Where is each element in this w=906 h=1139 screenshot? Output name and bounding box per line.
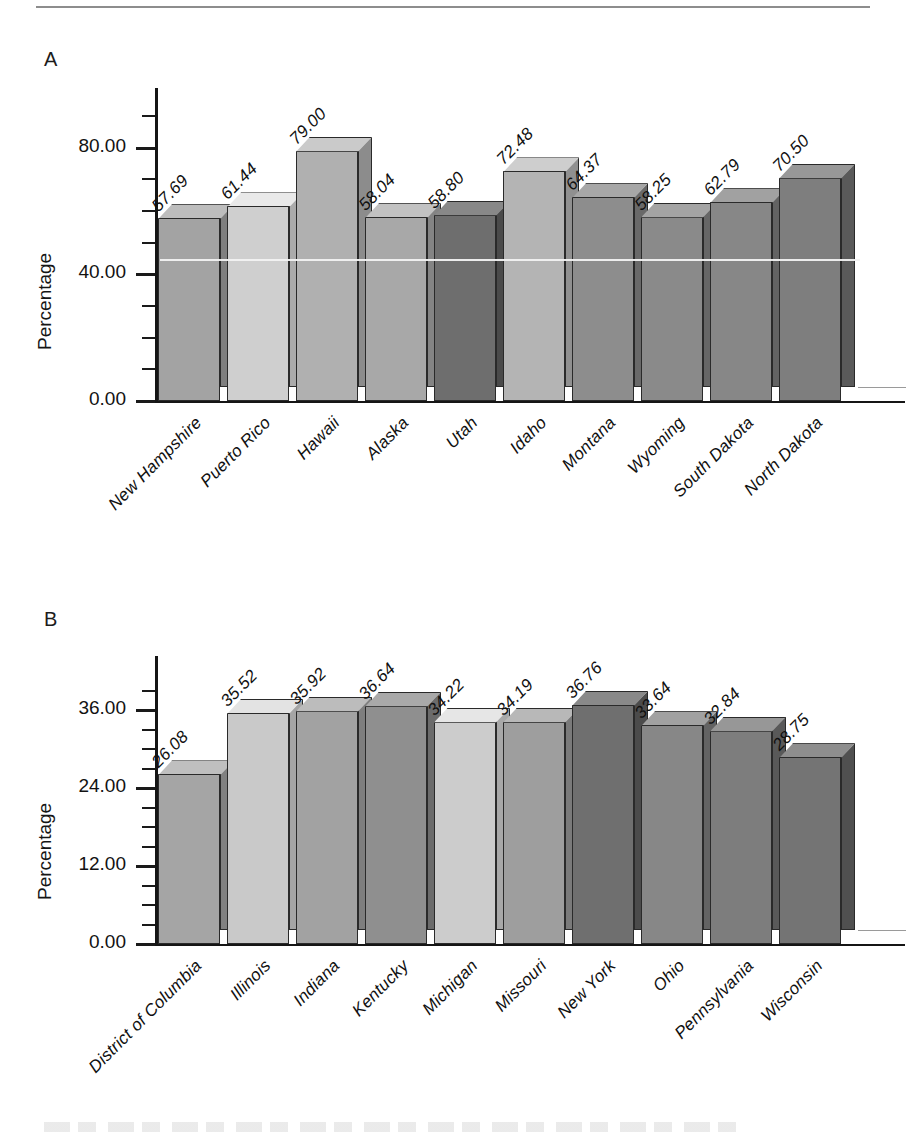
bar-front-face (503, 722, 565, 944)
x-axis-baseline (155, 944, 905, 946)
y-axis-major-tick (136, 273, 155, 276)
y-axis-tick-label: 40.00 (8, 261, 126, 283)
y-axis-minor-tick (142, 729, 155, 731)
bar-district-of-columbia[interactable] (158, 760, 234, 944)
y-axis-minor-tick (142, 885, 155, 887)
y-axis-major-tick (136, 709, 155, 712)
bar-wyoming[interactable] (641, 203, 717, 401)
bar-pennsylvania[interactable] (710, 717, 786, 944)
bar-front-face (572, 705, 634, 944)
bar-indiana[interactable] (296, 697, 372, 944)
y-axis-major-tick (136, 147, 155, 150)
bar-front-face (572, 197, 634, 401)
y-axis-major-tick (136, 400, 155, 403)
bar-north-dakota[interactable] (779, 164, 855, 401)
bar-idaho[interactable] (503, 157, 579, 401)
bar-new-york[interactable] (572, 691, 648, 944)
bar-front-face (296, 151, 358, 401)
top-divider-rule (36, 6, 870, 8)
y-axis-major-tick (136, 787, 155, 790)
y-axis-minor-tick (142, 690, 155, 692)
bar-front-face (296, 711, 358, 944)
bar-front-face (779, 757, 841, 944)
y-axis-tick-label: 36.00 (8, 697, 126, 719)
y-axis-minor-tick (142, 115, 155, 117)
bar-front-face (641, 217, 703, 401)
y-axis-tick-label: 24.00 (8, 775, 126, 797)
bar-front-face (434, 722, 496, 944)
caption-ghost-artifact (44, 1122, 744, 1132)
bar-front-face (434, 215, 496, 401)
x-axis-back-edge (858, 387, 906, 388)
bar-illinois[interactable] (227, 699, 303, 944)
bar-wisconsin[interactable] (779, 743, 855, 944)
bar-new-hampshire[interactable] (158, 204, 234, 401)
chart-panel-a: A Percentage 0.0040.0080.0057.69New Hamp… (0, 30, 897, 590)
bar-side-face (841, 164, 855, 387)
panel-b-plot-area: 0.0012.0024.0036.0026.08District of Colu… (0, 600, 897, 1120)
bar-front-face (158, 774, 220, 944)
y-axis-minor-tick (142, 748, 155, 750)
y-axis-minor-tick (142, 807, 155, 809)
bar-south-dakota[interactable] (710, 188, 786, 401)
bar-front-face (227, 206, 289, 401)
bar-puerto-rico[interactable] (227, 192, 303, 401)
bar-ohio[interactable] (641, 711, 717, 944)
bar-kentucky[interactable] (365, 692, 441, 944)
bar-front-face (365, 706, 427, 944)
y-axis-minor-tick (142, 368, 155, 370)
y-axis-major-tick (136, 865, 155, 868)
bar-front-face (503, 171, 565, 401)
bar-utah[interactable] (434, 201, 510, 401)
y-axis-minor-tick (142, 178, 155, 180)
x-axis-back-edge (858, 930, 906, 931)
x-axis-category-label: Wisconsin (601, 956, 827, 1139)
y-axis-minor-tick (142, 768, 155, 770)
bar-alaska[interactable] (365, 203, 441, 401)
y-axis-minor-tick (142, 305, 155, 307)
x-axis-baseline (155, 401, 905, 403)
bar-montana[interactable] (572, 183, 648, 401)
bar-side-face (841, 743, 855, 930)
y-axis-minor-tick (142, 337, 155, 339)
bar-front-face (710, 202, 772, 401)
bar-front-face (365, 217, 427, 401)
y-axis-tick-label: 0.00 (8, 388, 126, 410)
bar-front-face (227, 713, 289, 944)
bar-front-face (158, 218, 220, 401)
bar-front-face (779, 178, 841, 401)
bar-front-face (641, 725, 703, 944)
chart-panel-b: B Percentage 0.0012.0024.0036.0026.08Dis… (0, 600, 897, 1120)
y-axis-tick-label: 0.00 (8, 931, 126, 953)
y-axis-minor-tick (142, 210, 155, 212)
y-axis-tick-label: 12.00 (8, 853, 126, 875)
bar-hawaii[interactable] (296, 137, 372, 401)
bar-michigan[interactable] (434, 708, 510, 944)
y-axis-tick-label: 80.00 (8, 135, 126, 157)
y-axis-minor-tick (142, 826, 155, 828)
scan-artifact-line (160, 259, 860, 261)
panel-a-plot-area: 0.0040.0080.0057.69New Hampshire61.44Pue… (0, 30, 897, 590)
bar-front-face (710, 731, 772, 944)
bar-missouri[interactable] (503, 708, 579, 944)
y-axis-minor-tick (142, 242, 155, 244)
y-axis-minor-tick (142, 904, 155, 906)
y-axis-major-tick (136, 943, 155, 946)
y-axis-minor-tick (142, 924, 155, 926)
y-axis-minor-tick (142, 846, 155, 848)
